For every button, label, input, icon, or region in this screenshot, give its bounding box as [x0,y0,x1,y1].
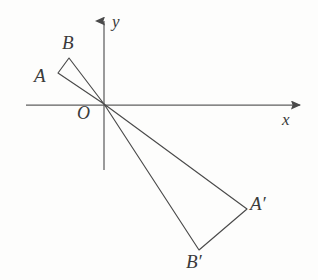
vertex-label-a: A [34,66,46,85]
geometry-figure: A B O A′ B′ x y [0,0,318,280]
origin-label-o: O [77,104,90,122]
vertex-label-b: B [62,33,74,52]
figure-canvas [0,0,318,280]
triangle-oab [58,58,104,104]
y-axis-label: y [112,13,120,30]
vertex-label-a-prime: A′ [250,194,266,213]
triangle-oapbp [104,104,247,250]
vertex-label-b-prime: B′ [186,252,202,271]
x-axis-label: x [282,111,290,128]
